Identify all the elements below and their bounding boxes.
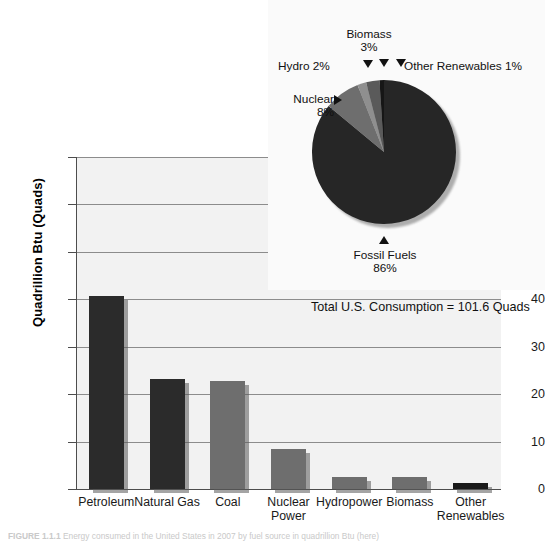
pie-label-other-renewables: Other Renewables 1% — [404, 60, 522, 73]
pie-marker-fossil-fuels-icon — [379, 236, 389, 244]
pie-label-nuclear-value: 8% — [317, 105, 334, 119]
pie-label-hydro: Hydro 2% — [278, 60, 330, 73]
pie-marker-hydro-icon — [363, 60, 373, 68]
total-consumption-annotation: Total U.S. Consumption = 101.6 Quads — [311, 300, 530, 314]
figure-caption-number: FIGURE 1.1.1 — [8, 531, 61, 541]
figure-energy-consumption: 010203040506070 Quadrillion Btu (Quads) … — [0, 0, 545, 543]
pie-label-fossil-fuels-value: 86% — [373, 261, 397, 275]
pie-label-biomass: Biomass 3% — [336, 28, 402, 54]
y-tick-mark-0 — [68, 489, 77, 490]
y-axis-title: Quadrillion Btu (Quads) — [30, 153, 45, 353]
bar-nuclear-power[interactable] — [271, 449, 306, 489]
pie-label-fossil-fuels: Fossil Fuels 86% — [340, 249, 430, 275]
pie-label-biomass-value: 3% — [360, 40, 377, 54]
pie-label-biomass-name: Biomass — [346, 27, 391, 41]
x-label-other-renewables: OtherRenewables — [429, 496, 513, 523]
pie-marker-nuclear-icon — [334, 95, 342, 105]
bar-other-renewables[interactable] — [453, 483, 488, 489]
pie-label-fossil-fuels-name: Fossil Fuels — [354, 248, 417, 262]
bar-petroleum[interactable] — [89, 296, 124, 489]
figure-caption: FIGURE 1.1.1 Energy consumed in the Unit… — [8, 531, 538, 541]
bar-hydropower[interactable] — [332, 477, 367, 489]
bar-coal[interactable] — [210, 381, 245, 489]
figure-caption-text: Energy consumed in the United States in … — [63, 531, 379, 541]
pie-marker-biomass-icon — [379, 59, 389, 67]
pie-label-nuclear-name: Nuclear — [293, 92, 334, 106]
pie-label-nuclear: Nuclear 8% — [272, 93, 334, 119]
pie-marker-other-renewables-icon — [396, 59, 406, 67]
bar-natural-gas[interactable] — [150, 379, 185, 489]
bar-biomass[interactable] — [392, 477, 427, 489]
